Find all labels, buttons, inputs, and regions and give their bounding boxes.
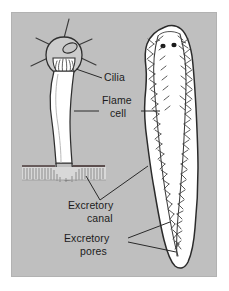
figure-root: Cilia Flame cell Excretory canal Excreto… [0, 0, 229, 291]
label-excretory-canal-line2: canal [87, 212, 113, 224]
label-excretory-pores-line1: Excretory [64, 232, 110, 244]
label-excretory-canal-line1: Excretory [68, 199, 114, 211]
ciliated-surface-band [22, 167, 106, 180]
flame-cell-diagram: Cilia Flame cell Excretory canal Excreto… [0, 0, 229, 291]
label-flame-cell-line1: Flame [102, 94, 132, 106]
label-excretory-pores-line2: pores [80, 245, 107, 257]
label-cilia: Cilia [104, 71, 125, 83]
eyespot-right [171, 43, 176, 47]
label-flame-cell-line2: cell [110, 107, 126, 119]
eyespot-left [160, 44, 165, 48]
